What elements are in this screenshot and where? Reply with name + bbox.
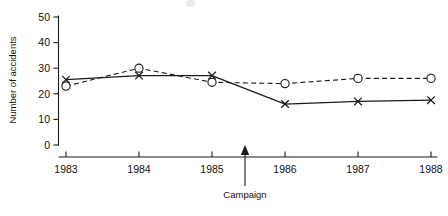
y-axis-title: Number of accidents [7,36,18,123]
x-tick-label-1985: 1985 [200,163,224,175]
x-tick-label-1986: 1986 [273,163,297,175]
y-tick-label-40: 40 [38,36,50,48]
dashed-point-1988 [427,74,435,82]
y-axis: 50 40 30 20 10 0 Number of accidents [7,11,59,151]
x-tick-label-1983: 1983 [54,163,78,175]
x-tick-label-1988: 1988 [419,163,443,175]
y-tick-label-30: 30 [38,62,50,74]
dashed-point-1985 [208,78,216,86]
campaign-annotation: Campaign [223,147,266,201]
x-tick-label-1987: 1987 [346,163,370,175]
series-solid-cross [62,72,435,108]
dashed-point-1987 [354,74,362,82]
dashed-point-1986 [281,80,289,88]
y-tick-label-20: 20 [38,88,50,100]
scan-artifact [186,0,195,7]
y-tick-label-0: 0 [44,139,50,151]
chart-canvas: 50 40 30 20 10 0 Number of accidents 198… [0,0,448,216]
campaign-annotation-label: Campaign [223,189,266,200]
accidents-line-chart: 50 40 30 20 10 0 Number of accidents 198… [0,0,448,216]
campaign-arrow-head-icon [242,147,249,155]
x-tick-label-1984: 1984 [127,163,151,175]
y-tick-label-10: 10 [38,113,50,125]
y-tick-label-50: 50 [38,11,50,23]
solid-series-line [66,76,431,104]
dashed-point-1984 [135,64,143,72]
